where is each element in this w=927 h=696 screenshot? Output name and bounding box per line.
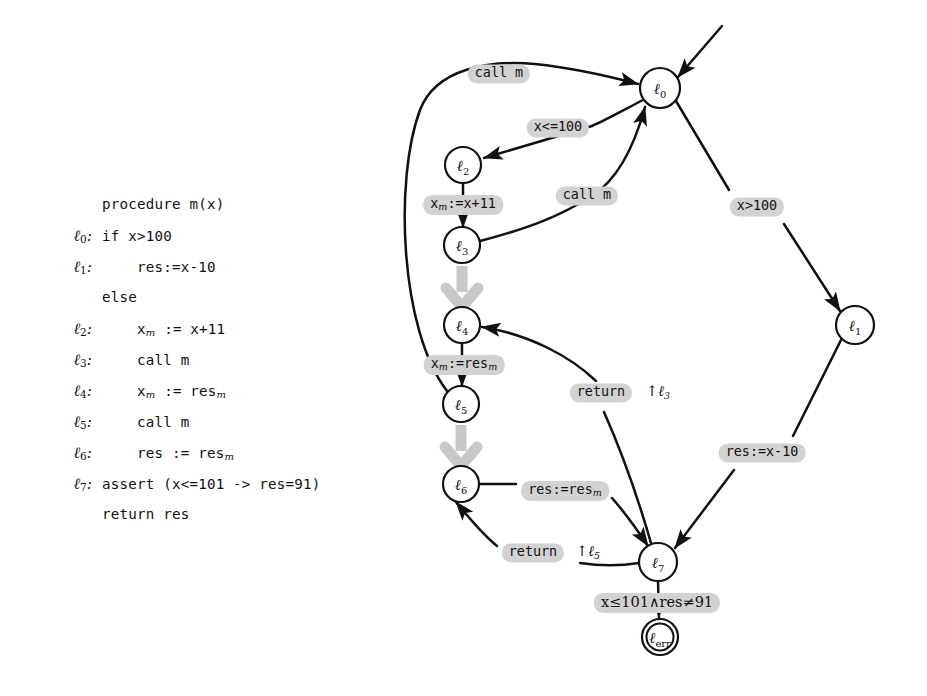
edge-l1-l7-seg2 (675, 470, 734, 548)
figure-root: procedure m(x) ℓ0: if x>100 ℓ1: res:=x-1… (0, 0, 927, 696)
edge-label-x-le-100: x<=100 (527, 118, 589, 137)
node-l1[interactable]: ℓ1 (836, 306, 874, 344)
edge-entry-l0 (678, 26, 722, 77)
annotation-uparrow-l5: ↑ℓ5 (576, 543, 600, 560)
control-flow-graph: ℓ0 ℓ1 ℓ2 ℓ3 ℓ4 (0, 0, 927, 696)
node-l4[interactable]: ℓ4 (444, 307, 480, 343)
node-lerr[interactable]: ℓerr (642, 619, 678, 655)
edge-l5-l0-call (405, 63, 638, 391)
edge-l7-l6-seg1 (580, 563, 639, 565)
node-l3[interactable]: ℓ3 (444, 227, 480, 263)
edge-label-assert-violation: x≤101∧res≠91 (594, 593, 720, 613)
graph-nodes: ℓ0 ℓ1 ℓ2 ℓ3 ℓ4 (443, 68, 874, 655)
edge-label-call-m-top: call m (468, 64, 530, 83)
node-l5[interactable]: ℓ5 (443, 386, 479, 422)
edge-l7-l4-seg1 (604, 412, 651, 543)
edge-label-xm-res: xm:=resm (424, 355, 505, 375)
node-l0[interactable]: ℓ0 (640, 68, 680, 108)
edge-l6-l7-seg2 (612, 498, 648, 546)
node-l7[interactable]: ℓ7 (639, 543, 677, 581)
edge-label-return-l5: return (502, 543, 564, 562)
edge-label-res-x-10: res:=x-10 (719, 443, 806, 462)
edge-l0-l1-seg2 (784, 224, 840, 311)
graph-canvas: ℓ0 ℓ1 ℓ2 ℓ3 ℓ4 (0, 0, 927, 696)
node-l6[interactable]: ℓ6 (443, 466, 479, 502)
edge-label-xm-assign: xm:=x+11 (423, 195, 503, 215)
annotation-uparrow-l3: ↑ℓ3 (646, 383, 670, 400)
edge-label-x-gt-100: x>100 (730, 197, 784, 216)
node-l2[interactable]: ℓ2 (445, 147, 481, 183)
edge-label-return-l3: return (570, 383, 632, 402)
edge-l1-l7-seg1 (793, 338, 842, 436)
edge-label-res-resm: res:=resm (521, 481, 609, 501)
edge-l0-l1-seg1 (676, 101, 729, 190)
edge-label-call-m-mid: call m (556, 186, 618, 205)
edge-l7-l6-seg2 (456, 502, 497, 546)
